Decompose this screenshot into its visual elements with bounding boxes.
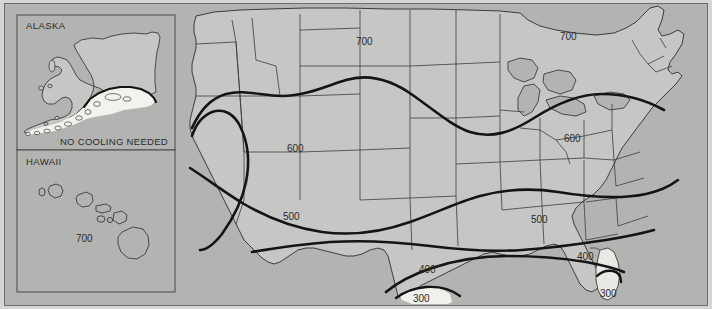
continental-us-map <box>190 6 684 306</box>
map-screenshot: ALASKA NO COOLING NEEDED HAWAII 700 <box>0 0 712 309</box>
map-canvas: ALASKA NO COOLING NEEDED HAWAII 700 <box>0 0 712 309</box>
contour-label-north-plains-700: 700 <box>356 36 373 47</box>
contour-label-great-lakes-700: 700 <box>560 31 577 42</box>
contour-label-florida-300: 300 <box>600 288 617 299</box>
alaska-inset: ALASKA NO COOLING NEEDED <box>17 15 175 150</box>
alaska-inset-label: ALASKA <box>26 20 66 31</box>
hawaii-inset: HAWAII 700 <box>17 150 175 292</box>
contour-label-gulf-400: 400 <box>577 251 594 262</box>
contour-label-midsouth-500: 500 <box>531 214 548 225</box>
contour-label-south-texas-300: 300 <box>413 293 430 304</box>
contour-label-southwest-500: 500 <box>283 211 300 222</box>
alaska-no-cooling-note: NO COOLING NEEDED <box>60 136 168 147</box>
hawaii-inset-label: HAWAII <box>26 156 61 167</box>
contour-label-ohio-600: 600 <box>564 133 581 144</box>
hawaii-contour-label: 700 <box>76 233 93 244</box>
contour-label-texas-400: 400 <box>419 264 436 275</box>
contour-label-mountain-600: 600 <box>287 143 304 154</box>
